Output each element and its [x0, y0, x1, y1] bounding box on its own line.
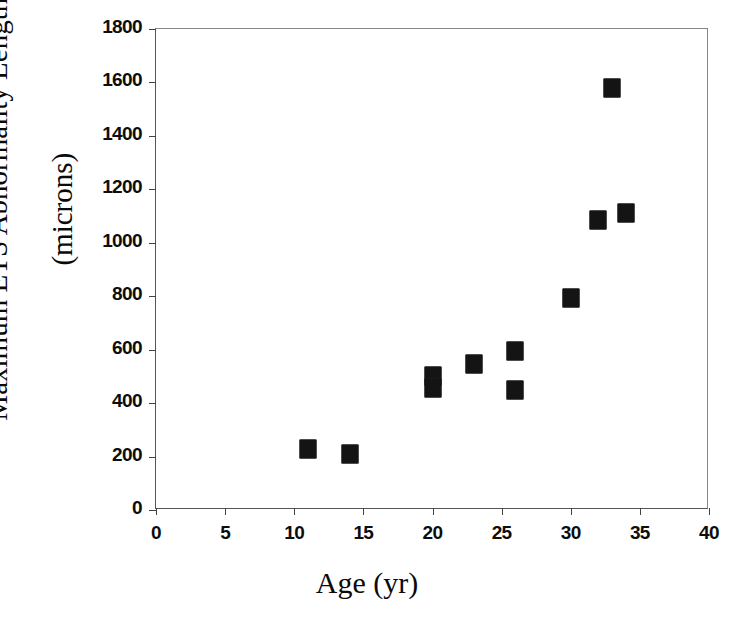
y-axis-tick-label-text: 800: [112, 283, 142, 305]
x-axis-tick-label-text: 25: [492, 522, 512, 544]
data-point-marker: [507, 342, 524, 361]
y-axis-title-line2: (microns): [46, 0, 78, 459]
data-point-marker: [590, 211, 607, 230]
x-axis-tick-label-text: 40: [699, 522, 719, 544]
y-axis-tick: [149, 403, 156, 404]
x-axis-tick: [640, 508, 641, 515]
x-axis-tick: [294, 508, 295, 515]
data-point-marker: [300, 439, 317, 458]
y-axis-tick: [149, 296, 156, 297]
data-point-marker: [507, 380, 524, 399]
y-axis-tick-label-text: 200: [112, 444, 142, 466]
y-axis-title-line1: Maximum ETS Abnormality Length: [0, 0, 14, 459]
x-axis-tick-label-text: 15: [353, 522, 373, 544]
x-axis-tick: [502, 508, 503, 515]
y-axis-tick: [149, 136, 156, 137]
scatter-chart-figure: 0200400600800100012001400160018000510152…: [0, 0, 734, 636]
x-axis-tick-label-text: 30: [561, 522, 581, 544]
y-axis-tick: [149, 29, 156, 30]
x-axis-tick-label-text: 20: [423, 522, 443, 544]
y-axis-tick: [149, 189, 156, 190]
x-axis-tick-label-text: 10: [284, 522, 304, 544]
y-axis-tick: [149, 350, 156, 351]
plot-area: 0200400600800100012001400160018000510152…: [155, 28, 708, 509]
data-point-marker: [465, 355, 482, 374]
y-axis-tick-label-text: 0: [132, 497, 142, 519]
x-axis-tick-label-text: 0: [151, 522, 161, 544]
x-axis-tick: [156, 508, 157, 515]
data-point-marker: [562, 288, 579, 307]
x-axis-tick: [363, 508, 364, 515]
y-axis-tick: [149, 243, 156, 244]
y-axis-tick: [149, 457, 156, 458]
x-axis-tick: [433, 508, 434, 515]
y-axis-tick: [149, 510, 156, 511]
data-point-marker: [341, 444, 358, 463]
data-point-marker: [424, 379, 441, 398]
x-axis-tick: [225, 508, 226, 515]
y-axis-tick: [149, 82, 156, 83]
y-axis-tick-label-text: 400: [112, 390, 142, 412]
x-axis-tick: [709, 508, 710, 515]
x-axis-tick: [571, 508, 572, 515]
x-axis-title: Age (yr): [0, 566, 734, 600]
data-point-marker: [604, 78, 621, 97]
y-axis-tick-label-text: 600: [112, 337, 142, 359]
y-axis-title: Maximum ETS Abnormality Length (microns): [0, 0, 111, 459]
x-axis-tick-label-text: 35: [630, 522, 650, 544]
x-axis-tick-label-text: 5: [220, 522, 230, 544]
data-point-marker: [618, 204, 635, 223]
